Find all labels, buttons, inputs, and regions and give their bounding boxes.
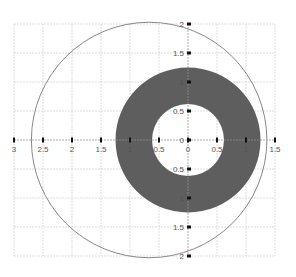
y-tick-mark: [187, 168, 191, 171]
x-tick-mark: [129, 138, 131, 143]
x-tick-label: 0.5: [153, 145, 165, 154]
y-tick-label: 1.5: [173, 223, 185, 232]
y-axis-ticks: 21.510.500.511.52: [173, 20, 191, 261]
y-tick-mark: [187, 139, 191, 142]
x-tick-mark: [13, 138, 15, 143]
y-tick-mark: [187, 197, 191, 200]
x-tick-mark: [158, 138, 160, 143]
x-tick-mark: [71, 138, 73, 143]
x-tick-label: 1: [244, 145, 249, 154]
x-tick-label: 0.5: [211, 145, 223, 154]
x-tick-mark: [42, 138, 44, 143]
y-tick-mark: [187, 226, 191, 229]
coordinate-diagram: 32.521.510.500.511.5 21.510.500.511.52: [0, 0, 296, 277]
y-tick-label: 0.5: [173, 107, 185, 116]
y-tick-mark: [187, 81, 191, 84]
y-tick-label: 2: [180, 20, 185, 29]
x-tick-label: 0: [186, 145, 191, 154]
x-tick-label: 1.5: [95, 145, 107, 154]
y-tick-label: 1: [180, 194, 185, 203]
y-tick-label: 2: [180, 252, 185, 261]
y-tick-mark: [187, 255, 191, 258]
x-tick-label: 1.5: [269, 145, 281, 154]
x-tick-label: 3: [12, 145, 17, 154]
y-tick-mark: [187, 110, 191, 113]
x-tick-mark: [274, 138, 276, 143]
x-tick-label: 1: [128, 145, 133, 154]
x-tick-mark: [216, 138, 218, 143]
y-tick-label: 1: [180, 78, 185, 87]
y-tick-label: 0: [180, 136, 185, 145]
x-tick-label: 2: [70, 145, 75, 154]
x-tick-mark: [245, 138, 247, 143]
x-tick-mark: [100, 138, 102, 143]
y-tick-label: 1.5: [173, 49, 185, 58]
y-tick-label: 0.5: [173, 165, 185, 174]
x-tick-label: 2.5: [37, 145, 49, 154]
y-tick-mark: [187, 52, 191, 55]
y-tick-mark: [187, 23, 191, 26]
